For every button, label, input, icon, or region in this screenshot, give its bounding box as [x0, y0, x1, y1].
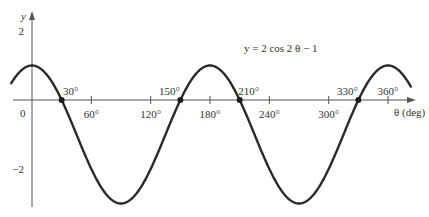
x-tick-label: 300°: [318, 108, 339, 120]
x-tick-label: 240°: [259, 108, 280, 120]
y-axis-arrow-icon: [29, 11, 35, 20]
x-tick-label: 360°: [378, 85, 399, 97]
x-tick-label: 180°: [200, 108, 221, 120]
x-axis-label: θ (deg): [394, 106, 426, 119]
zero-crossing-dot: [59, 97, 65, 103]
x-tick-label: 120°: [140, 108, 161, 120]
zero-crossing-label: 330°: [337, 85, 358, 97]
zero-crossing-dot: [177, 97, 183, 103]
zero-crossing-label: 30°: [63, 85, 78, 97]
zero-crossing-label: 210°: [238, 85, 259, 97]
zero-crossing-label: 150°: [159, 85, 180, 97]
y-axis-label: y: [20, 10, 26, 22]
origin-label: 0: [20, 107, 26, 119]
y-tick-label: 2: [19, 25, 25, 37]
cosine-chart: 60°120°180°240°300°360° 2−2 30°150°210°3…: [0, 0, 429, 217]
y-tick-label: −2: [12, 163, 24, 175]
x-axis-arrow-icon: [407, 97, 416, 103]
x-tick-label: 60°: [84, 108, 99, 120]
equation-label: y = 2 cos 2 θ − 1: [244, 42, 318, 54]
zero-crossing-dot: [355, 97, 361, 103]
zero-crossing-dot: [237, 97, 243, 103]
